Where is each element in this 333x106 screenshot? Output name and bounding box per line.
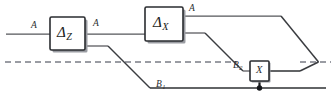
x-gate-label: X (256, 65, 262, 76)
wire-label-b1: B1 (156, 80, 165, 90)
wire-label-a-input-text: A (31, 20, 37, 30)
wire-a-top-diagonal (281, 16, 319, 62)
wire-label-b2-text: B (233, 60, 239, 70)
wire-label-a-top-text: A (189, 3, 195, 13)
delta-x-subscript: X (162, 21, 169, 32)
wire-label-b1-text: B (156, 79, 162, 89)
delta-z-subscript: Z (66, 31, 72, 42)
wire-label-b2-subscript: 2 (239, 64, 243, 71)
wire-label-a-input: A (31, 21, 37, 31)
delta-x-symbol: Δ (153, 14, 162, 30)
wire-label-a-mid: A (93, 19, 99, 29)
wire-label-b1-subscript: 1 (162, 83, 166, 90)
figure-canvas: ΔZ ΔX X A A A B1 B2 (0, 0, 333, 106)
delta-z-gate-label: ΔZ (57, 25, 72, 42)
wire-label-a-top: A (189, 4, 195, 14)
wire-label-a-mid-text: A (93, 18, 99, 28)
delta-x-gate-label: ΔX (153, 15, 168, 32)
control-dot-icon (257, 85, 262, 90)
delta-z-symbol: Δ (57, 24, 66, 40)
wire-z-lower-diagonal (108, 46, 150, 88)
wire-label-b2: B2 (233, 61, 242, 71)
wire-x-output-diagonal (300, 62, 319, 71)
